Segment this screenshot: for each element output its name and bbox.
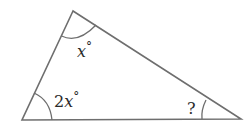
- angle-arc-bottom-right: [202, 100, 206, 119]
- angle-label-bottom-right: ?: [187, 99, 196, 118]
- angle-arc-bottom-left: [34, 93, 52, 120]
- angle-label-bottom-left: 2x°: [54, 90, 79, 111]
- triangle-diagram: x° 2x° ?: [0, 0, 252, 131]
- angle-label-top: x°: [77, 40, 92, 61]
- angle-arc-top: [62, 25, 97, 38]
